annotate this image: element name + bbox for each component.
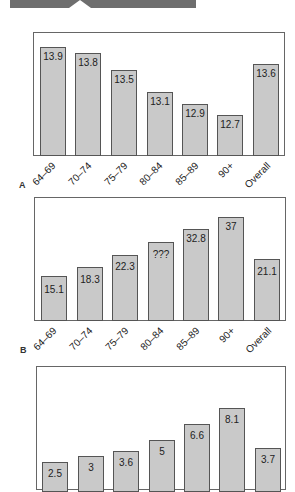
bar-value-label: 18.3 xyxy=(78,274,102,285)
chart-a-bar: 13.9 xyxy=(40,47,66,156)
bar-value-label: 3.7 xyxy=(256,454,280,465)
chart-b-bar: ??? xyxy=(148,242,174,321)
chart-a-bar: 12.7 xyxy=(217,115,243,156)
bar-value-label: 12.7 xyxy=(218,119,242,130)
bar-value-label: 3.6 xyxy=(114,457,138,468)
x-tick-label: 85–89 xyxy=(174,325,201,352)
panel-letter-b: B xyxy=(20,345,27,355)
bar-value-label: 15.1 xyxy=(42,284,66,295)
x-tick-label: 64–69 xyxy=(31,325,58,352)
chart-a-bar: 13.6 xyxy=(253,64,279,156)
x-tick-label: 70–74 xyxy=(66,160,93,187)
chart-c-bar: 2.5 xyxy=(42,462,68,492)
chart-a-bar: 13.5 xyxy=(111,70,137,156)
x-tick-label: 75–79 xyxy=(102,160,129,187)
bar-value-label: 8.1 xyxy=(220,414,244,425)
bar-value-label: 12.9 xyxy=(183,108,207,119)
chart-b-bar: 37 xyxy=(218,217,244,321)
x-tick-label: 80–84 xyxy=(138,325,165,352)
bar-value-label: 3 xyxy=(79,462,103,473)
chart-c-bar: 6.6 xyxy=(184,424,210,492)
x-tick-label: Overall xyxy=(243,160,273,190)
x-tick-label: 70–74 xyxy=(67,325,94,352)
chart-b-bar: 15.1 xyxy=(41,276,67,321)
chart-a-bar: 13.8 xyxy=(75,53,101,156)
bar-value-label: 13.9 xyxy=(41,51,65,62)
panel-letter-a: A xyxy=(19,180,26,190)
bar-value-label: 22.3 xyxy=(113,261,137,272)
header-banner xyxy=(10,0,196,8)
x-tick-label: 90+ xyxy=(217,325,237,345)
bar-value-label: 21.1 xyxy=(255,266,279,277)
x-tick-label: Overall xyxy=(244,325,274,355)
bar-value-label: 2.5 xyxy=(43,468,67,479)
chart-b-bar: 32.8 xyxy=(183,229,209,321)
chart-c-bar: 3.6 xyxy=(113,451,139,492)
bar-value-label: 13.5 xyxy=(112,74,136,85)
chart-a-bar: 13.1 xyxy=(147,92,173,156)
bar-value-label: 13.8 xyxy=(76,57,100,68)
bar-value-label: 5 xyxy=(150,446,174,457)
chart-b-bar: 21.1 xyxy=(254,259,280,321)
chart-c-bar: 3.7 xyxy=(255,448,281,492)
x-tick-label: 64–69 xyxy=(30,160,57,187)
x-tick-label: 85–89 xyxy=(173,160,200,187)
x-tick-label: 75–79 xyxy=(103,325,130,352)
chart-c-bar: 8.1 xyxy=(219,408,245,492)
bar-value-label: 13.1 xyxy=(148,96,172,107)
chart-b-bar: 22.3 xyxy=(112,255,138,321)
bar-value-label: ??? xyxy=(149,249,173,260)
chart-a-bar: 12.9 xyxy=(182,104,208,156)
banner-notch xyxy=(69,0,91,8)
bar-value-label: 37 xyxy=(219,221,243,232)
bar-value-label: 6.6 xyxy=(185,430,209,441)
chart-c-bar: 3 xyxy=(78,456,104,492)
bar-value-label: 13.6 xyxy=(254,68,278,79)
chart-b-bar: 18.3 xyxy=(77,267,103,321)
chart-c-bar: 5 xyxy=(149,440,175,492)
x-tick-label: 80–84 xyxy=(137,160,164,187)
x-tick-label: 90+ xyxy=(216,160,236,180)
bar-value-label: 32.8 xyxy=(184,233,208,244)
